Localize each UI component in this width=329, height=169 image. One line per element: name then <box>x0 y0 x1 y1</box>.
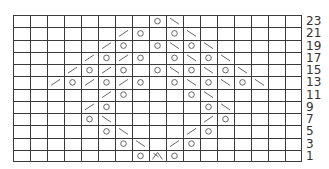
k2tog-icon <box>102 43 111 49</box>
yarn-over-icon <box>206 80 212 86</box>
yarn-over-icon <box>189 141 195 147</box>
yarn-over-icon <box>155 43 161 49</box>
yarn-over-icon <box>206 55 212 61</box>
row-label: 1 <box>306 150 314 162</box>
ssk-icon <box>170 18 179 24</box>
yarn-over-icon <box>189 67 195 73</box>
row-labels: 2321191715131197531 <box>306 15 329 162</box>
chart-grid <box>13 15 302 162</box>
k2tog-icon <box>85 104 94 110</box>
yarn-over-icon <box>138 31 144 37</box>
yarn-over-icon <box>121 43 127 49</box>
yarn-over-icon <box>223 116 229 122</box>
row-label: 11 <box>306 89 321 101</box>
row-label: 5 <box>306 125 314 137</box>
ssk-icon <box>119 128 128 134</box>
yarn-over-icon <box>223 67 229 73</box>
k2tog-icon <box>187 128 196 134</box>
row-label: 3 <box>306 138 314 150</box>
yarn-over-icon <box>240 80 246 86</box>
row-label: 19 <box>306 40 321 52</box>
yarn-over-icon <box>87 67 93 73</box>
ssk-icon <box>170 67 179 73</box>
yarn-over-icon <box>155 67 161 73</box>
k2tog-icon <box>102 67 111 73</box>
yarn-over-icon <box>172 80 178 86</box>
ssk-icon <box>204 92 213 98</box>
ssk-icon <box>238 67 247 73</box>
k2tog-icon <box>68 67 77 73</box>
yarn-over-icon <box>104 104 110 110</box>
ssk-icon <box>187 79 196 85</box>
yarn-over-icon <box>104 55 110 61</box>
ssk-icon <box>221 79 230 85</box>
ssk-icon <box>204 67 213 73</box>
k2tog-icon <box>170 141 179 147</box>
ssk-icon <box>102 116 111 122</box>
yarn-over-icon <box>172 55 178 61</box>
knitting-chart <box>13 15 302 162</box>
k2tog-icon <box>51 79 60 85</box>
yarn-over-icon <box>121 67 127 73</box>
k2tog-icon <box>204 116 213 122</box>
yarn-over-icon <box>121 141 127 147</box>
ssk-icon <box>187 30 196 36</box>
yarn-over-icon <box>104 80 110 86</box>
ssk-icon <box>136 141 145 147</box>
ssk-icon <box>170 43 179 49</box>
k2tog-icon <box>119 55 128 61</box>
k2tog-icon <box>119 79 128 85</box>
double-decrease-icon <box>153 152 163 159</box>
yarn-over-icon <box>206 104 212 110</box>
k2tog-icon <box>85 79 94 85</box>
ssk-icon <box>187 55 196 61</box>
ssk-icon <box>221 104 230 110</box>
yarn-over-icon <box>172 31 178 37</box>
k2tog-icon <box>85 55 94 61</box>
ssk-icon <box>221 55 230 61</box>
yarn-over-icon <box>138 55 144 61</box>
row-label: 21 <box>306 27 321 39</box>
yarn-over-icon <box>189 92 195 98</box>
yarn-over-icon <box>138 153 144 159</box>
yarn-over-icon <box>104 129 110 135</box>
row-label: 13 <box>306 76 321 88</box>
yarn-over-icon <box>189 43 195 49</box>
ssk-icon <box>255 79 264 85</box>
k2tog-icon <box>119 30 128 36</box>
yarn-over-icon <box>206 129 212 135</box>
k2tog-icon <box>102 92 111 98</box>
yarn-over-icon <box>155 18 161 24</box>
yarn-over-icon <box>87 116 93 122</box>
yarn-over-icon <box>138 80 144 86</box>
ssk-icon <box>204 43 213 49</box>
yarn-over-icon <box>121 92 127 98</box>
yarn-over-icon <box>70 80 76 86</box>
yarn-over-icon <box>172 153 178 159</box>
